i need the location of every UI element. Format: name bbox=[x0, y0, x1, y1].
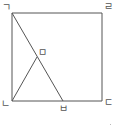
label-giyeok: ㄱ bbox=[2, 2, 11, 13]
label-rieul: ㄹ bbox=[104, 1, 113, 12]
segment-nieun-mieum bbox=[12, 57, 37, 101]
label-mieum: ㅁ bbox=[38, 47, 47, 58]
label-nieun: ㄴ bbox=[1, 98, 10, 109]
stray-mark bbox=[110, 124, 111, 125]
label-bieup: ㅂ bbox=[59, 103, 68, 114]
geometry-diagram: ㄱ ㄹ ㄴ ㄷ ㅁ ㅂ bbox=[0, 0, 119, 127]
label-digeut: ㄷ bbox=[104, 97, 113, 108]
